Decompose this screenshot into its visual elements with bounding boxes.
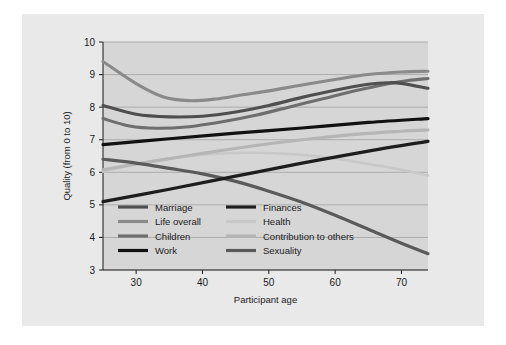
x-tick-label: 60 [330, 277, 342, 288]
x-tick-label: 70 [396, 277, 408, 288]
legend-label: Contribution to others [263, 231, 354, 242]
y-tick-label: 3 [89, 265, 95, 276]
legend-label: Health [263, 216, 290, 227]
x-tick-label: 30 [131, 277, 143, 288]
y-tick-label: 8 [89, 102, 95, 113]
y-tick-label: 7 [89, 134, 95, 145]
legend-label: Life overall [155, 216, 201, 227]
legend-label: Work [155, 245, 177, 256]
chart-plot-wrapper: 3456789103040506070 Quality (from 0 to 1… [0, 0, 506, 345]
x-axis-title: Participant age [234, 294, 297, 305]
x-tick-label: 50 [263, 277, 275, 288]
line-chart: 3456789103040506070 Quality (from 0 to 1… [0, 0, 506, 345]
y-tick-label: 5 [89, 199, 95, 210]
legend-label: Children [155, 231, 190, 242]
legend-label: Finances [263, 202, 302, 213]
y-axis-title: Quality (from 0 to 10) [61, 111, 72, 200]
y-tick-label: 6 [89, 167, 95, 178]
x-tick-label: 40 [197, 277, 209, 288]
legend-label: Marriage [155, 202, 193, 213]
y-tick-label: 9 [89, 69, 95, 80]
figure-container: 3456789103040506070 Quality (from 0 to 1… [0, 0, 506, 345]
y-tick-label: 10 [84, 37, 96, 48]
legend-label: Sexuality [263, 245, 302, 256]
y-tick-label: 4 [89, 232, 95, 243]
